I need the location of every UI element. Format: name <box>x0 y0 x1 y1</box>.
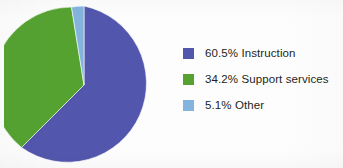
legend-item-instruction[interactable]: 60.5% Instruction <box>183 40 341 66</box>
legend-swatch-other <box>183 100 194 111</box>
pie-svg <box>4 5 164 165</box>
chart-legend: 60.5% Instruction 34.2% Support services… <box>183 40 341 118</box>
legend-item-support-services[interactable]: 34.2% Support services <box>183 66 341 92</box>
legend-label-instruction: 60.5% Instruction <box>205 47 296 60</box>
pie-chart-graphic <box>4 5 164 165</box>
legend-swatch-instruction <box>183 48 194 59</box>
legend-label-support-services: 34.2% Support services <box>205 73 329 86</box>
legend-item-other[interactable]: 5.1% Other <box>183 92 341 118</box>
pie-chart-figure: 60.5% Instruction 34.2% Support services… <box>0 0 343 168</box>
legend-swatch-support-services <box>183 74 194 85</box>
legend-label-other: 5.1% Other <box>205 99 264 112</box>
